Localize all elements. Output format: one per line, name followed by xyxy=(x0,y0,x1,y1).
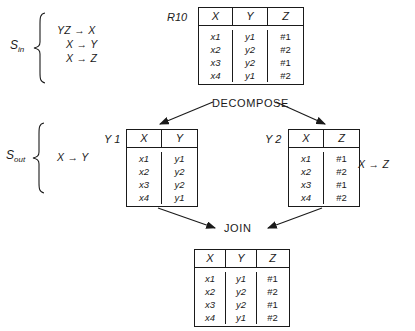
col-header: Z xyxy=(324,130,359,147)
join-arrow-right xyxy=(268,208,322,228)
cell: y2 xyxy=(162,178,197,191)
table-row: x1 y1 #1 xyxy=(195,272,289,285)
cell: x3 xyxy=(195,298,226,311)
cell: x3 xyxy=(289,178,324,191)
table-row: x2 #2 xyxy=(289,165,359,178)
table-row: x1 y1 xyxy=(127,152,197,165)
cell: #2 xyxy=(324,191,359,204)
cell: x3 xyxy=(127,178,162,191)
col-header: X xyxy=(127,130,162,147)
table-row: x4 y1 #2 xyxy=(195,311,289,324)
table-label-y2: Y 2 xyxy=(265,133,281,145)
cell: #2 xyxy=(257,285,288,298)
cell: #1 xyxy=(324,178,359,191)
col-header: X xyxy=(195,250,226,267)
cell: x4 xyxy=(195,311,226,324)
cell: #2 xyxy=(257,311,288,324)
table-row: x2 y2 xyxy=(127,165,197,178)
table-y1-body: x1 y1 x2 y2 x3 y2 x4 y1 xyxy=(127,152,197,204)
operation-label-join: JOIN xyxy=(224,222,251,234)
table-row: x3 #1 xyxy=(289,178,359,191)
cell: y2 xyxy=(226,285,257,298)
table-y2-header: X Z xyxy=(289,130,359,148)
cell: y2 xyxy=(162,165,197,178)
table-row: x2 y2 #2 xyxy=(195,285,289,298)
cell: #2 xyxy=(324,165,359,178)
cell: #1 xyxy=(257,272,288,285)
table-join-result: X Y Z x1 y1 #1 x2 y2 #2 x3 y2 #1 x4 y1 xyxy=(194,249,290,327)
cell: x2 xyxy=(289,165,324,178)
table-y2: X Z x1 #1 x2 #2 x3 #1 x4 #2 xyxy=(288,129,360,207)
table-y1-header: X Y xyxy=(127,130,197,148)
cell: x4 xyxy=(127,191,162,204)
diagram-canvas: Sin YZ → X X → Y X → Z Sout X → Y R10 X … xyxy=(0,0,415,331)
col-header: X xyxy=(289,130,324,147)
table-row: x1 #1 xyxy=(289,152,359,165)
operation-label-decompose: DECOMPOSE xyxy=(212,97,289,109)
table-y1: X Y x1 y1 x2 y2 x3 y2 x4 y1 xyxy=(126,129,198,207)
decompose-arrow-left xyxy=(160,102,213,124)
cell: x1 xyxy=(289,152,324,165)
col-header: Y xyxy=(162,130,197,147)
cell: y1 xyxy=(162,191,197,204)
table-row: x4 #2 xyxy=(289,191,359,204)
cell: x1 xyxy=(127,152,162,165)
table-label-y1: Y 1 xyxy=(104,133,120,145)
table-y2-body: x1 #1 x2 #2 x3 #1 x4 #2 xyxy=(289,152,359,204)
table-row: x3 y2 xyxy=(127,178,197,191)
cell: y1 xyxy=(162,152,197,165)
col-header: Y xyxy=(226,250,257,267)
cell: y2 xyxy=(226,298,257,311)
join-arrow-left xyxy=(158,208,215,228)
cell: #1 xyxy=(257,298,288,311)
table-join-result-body: x1 y1 #1 x2 y2 #2 x3 y2 #1 x4 y1 #2 xyxy=(195,272,289,324)
cell: x2 xyxy=(127,165,162,178)
cell: y1 xyxy=(226,311,257,324)
cell: x1 xyxy=(195,272,226,285)
table-row: x4 y1 xyxy=(127,191,197,204)
cell: x2 xyxy=(195,285,226,298)
table-row: x3 y2 #1 xyxy=(195,298,289,311)
col-header: Z xyxy=(257,250,288,267)
cell: #1 xyxy=(324,152,359,165)
side-dependency-label: X → Z xyxy=(358,158,389,170)
cell: y1 xyxy=(226,272,257,285)
cell: x4 xyxy=(289,191,324,204)
table-join-result-header: X Y Z xyxy=(195,250,289,268)
